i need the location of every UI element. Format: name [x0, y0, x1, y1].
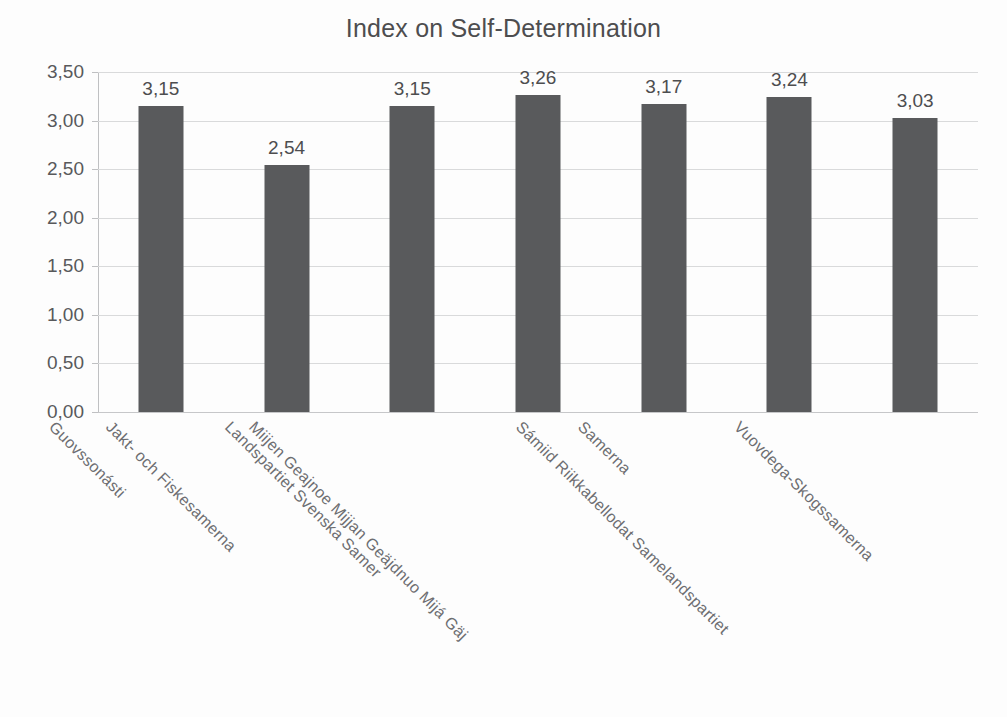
bar-value-label: 3,17: [645, 76, 682, 98]
bar-slot: 3,24: [727, 72, 853, 412]
y-tick-label: 3,50: [22, 61, 84, 83]
bar-slot: 2,54: [224, 72, 350, 412]
x-tick-label: Vuovdega-Skogssamerna: [730, 418, 877, 565]
bar-value-label: 2,54: [268, 137, 305, 159]
y-tick-label: 1,50: [22, 255, 84, 277]
bar-value-label: 3,15: [394, 78, 431, 100]
x-tick-label: Samerna: [574, 418, 634, 478]
y-axis-tick-labels: 3,50 3,00 2,50 2,00 1,50 1,00 0,50 0,00: [22, 72, 84, 413]
bar-slot: 3,17: [601, 72, 727, 412]
bar-value-label: 3,26: [519, 67, 556, 89]
y-tick-label: 0,50: [22, 352, 84, 374]
bar-slot: 3,15: [98, 72, 224, 412]
category-axis-line: [98, 412, 978, 413]
x-tick-label: Sámiid Riikkabellodat Samelandspartiet: [512, 418, 732, 638]
y-tick-label: 3,00: [22, 110, 84, 132]
y-tick-label: 2,50: [22, 158, 84, 180]
y-tick-label: 2,00: [22, 207, 84, 229]
bar[interactable]: [138, 106, 183, 412]
y-tick-label: 1,00: [22, 304, 84, 326]
bar-slot: 3,03: [852, 72, 978, 412]
bar[interactable]: [390, 106, 435, 412]
chart-page: Index on Self-Determination 3,50 3,00 2,…: [0, 0, 1007, 717]
y-tick-label: 0,00: [22, 401, 84, 423]
x-tick-label: Landspartiet Svenska Samer: [221, 418, 385, 582]
x-tick-label: Miijen Geajnoe Mijjan Geäjdnuo Mijá Gäj: [245, 418, 471, 644]
bar[interactable]: [767, 97, 812, 412]
bar[interactable]: [641, 104, 686, 412]
bar[interactable]: [893, 118, 938, 412]
x-axis-tick-labels: Guovssonásti Jakt- och Fiskesamerna Land…: [98, 418, 978, 698]
bar-value-label: 3,03: [897, 90, 934, 112]
plot-area: 3,15 2,54 3,15 3,26 3,17 3,24 3,03: [98, 72, 978, 412]
chart-title: Index on Self-Determination: [0, 14, 1007, 43]
bar-slot: 3,15: [349, 72, 475, 412]
bar[interactable]: [264, 165, 309, 412]
bar-value-label: 3,24: [771, 69, 808, 91]
bar-value-label: 3,15: [142, 78, 179, 100]
bar-slot: 3,26: [475, 72, 601, 412]
bar[interactable]: [515, 95, 560, 412]
